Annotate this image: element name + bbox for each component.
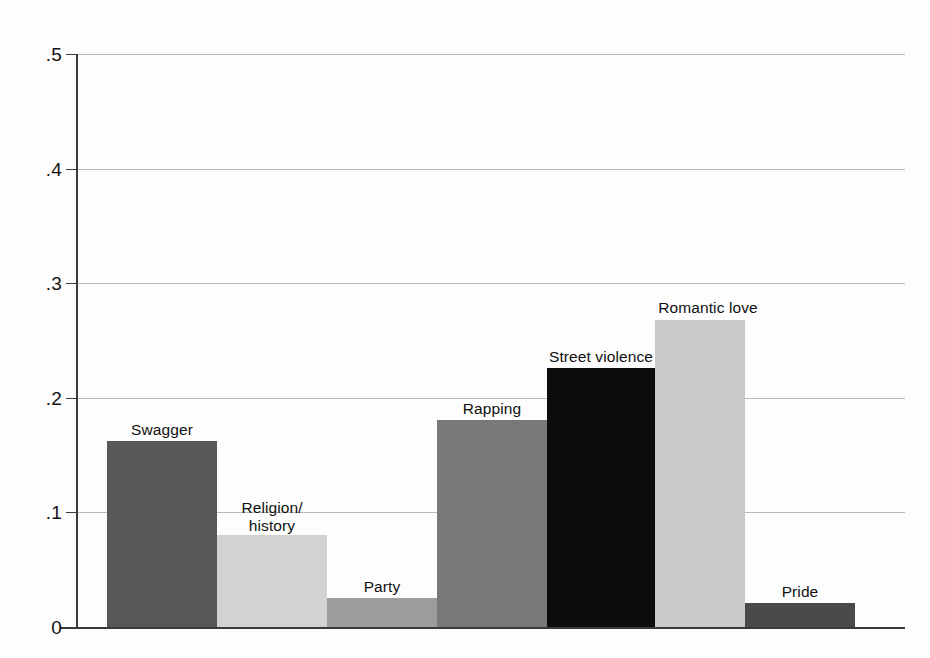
bar-religion-history xyxy=(217,535,327,627)
bar-label-rapping: Rapping xyxy=(437,400,547,418)
bar-pride xyxy=(745,603,855,627)
bar-chart-figure: .5 .4 .3 .2 .1 0 Swagger Religion/ histo… xyxy=(0,0,930,658)
gridline-0.3 xyxy=(76,283,905,284)
bar-label-party: Party xyxy=(327,578,437,596)
y-tick-mark-0.2 xyxy=(66,398,77,399)
bar-swagger xyxy=(107,441,217,627)
plot-area: .5 .4 .3 .2 .1 0 Swagger Religion/ histo… xyxy=(0,0,930,658)
bar-label-romantic-love: Romantic love xyxy=(628,299,788,317)
bar-label-swagger: Swagger xyxy=(107,421,217,439)
gridline-0.5 xyxy=(76,54,905,55)
bar-label-religion-line2: history xyxy=(249,517,295,534)
y-tick-label-0.4: .4 xyxy=(46,160,62,179)
y-tick-mark-0.1 xyxy=(66,512,77,513)
y-tick-label-0.2: .2 xyxy=(46,389,62,408)
x-axis-line xyxy=(60,627,905,629)
bar-romantic-love xyxy=(655,320,745,627)
bar-rapping xyxy=(437,420,547,627)
gridline-0.2 xyxy=(76,398,905,399)
y-tick-label-0.3: .3 xyxy=(46,274,62,293)
bar-label-pride: Pride xyxy=(745,583,855,601)
y-tick-mark-0.4 xyxy=(66,169,77,170)
y-tick-mark-0.3 xyxy=(66,283,77,284)
y-tick-label-0.5: .5 xyxy=(46,45,62,64)
y-tick-mark-0 xyxy=(66,627,77,628)
gridline-0.4 xyxy=(76,169,905,170)
bar-party xyxy=(327,598,437,627)
bar-label-street-violence: Street violence xyxy=(516,348,686,366)
y-tick-label-0: 0 xyxy=(51,618,62,637)
bar-street-violence xyxy=(547,368,655,627)
bar-label-religion-history: Religion/ history xyxy=(217,499,327,535)
y-tick-mark-0.5 xyxy=(66,54,77,55)
y-axis-line xyxy=(76,54,78,628)
bar-label-religion-line1: Religion/ xyxy=(241,499,302,516)
y-tick-label-0.1: .1 xyxy=(46,503,62,522)
